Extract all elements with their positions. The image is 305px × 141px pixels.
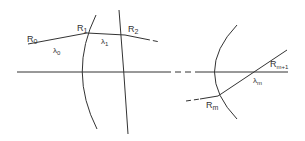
ray-continuation-dashed xyxy=(145,39,160,42)
ray-m-incoming-dashed xyxy=(186,99,200,101)
label-Rm: Rm xyxy=(206,100,219,111)
diagram-svg: R0 λ0 R1 λ1 R2 Rm λm Rm+1 xyxy=(0,0,305,141)
label-lambda1: λ1 xyxy=(101,37,109,47)
label-lambda0: λ0 xyxy=(53,46,61,56)
label-Rm1: Rm+1 xyxy=(270,59,289,70)
optical-system-diagram: R0 λ0 R1 λ1 R2 Rm λm Rm+1 xyxy=(0,0,305,141)
ray-segment-m xyxy=(200,50,287,99)
label-R0: R0 xyxy=(27,34,38,45)
label-lambdam: λm xyxy=(253,76,262,86)
label-R1: R1 xyxy=(77,23,88,34)
label-R2: R2 xyxy=(128,24,139,35)
